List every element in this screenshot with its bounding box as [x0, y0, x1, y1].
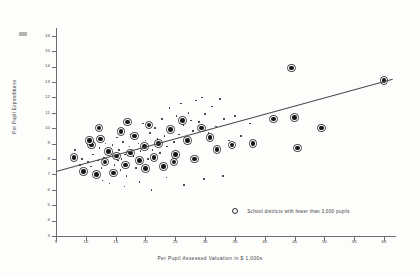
data-point-large-district: [228, 140, 230, 142]
data-point-small-district: [215, 147, 220, 152]
x-tick-label: 10: [76, 240, 96, 244]
data-point-large-district: [133, 155, 135, 157]
x-tick-label: 35: [225, 240, 245, 244]
data-point-small-district: [292, 115, 297, 120]
data-point-large-district: [190, 120, 192, 122]
data-point-small-district: [147, 123, 152, 128]
data-point-large-district: [211, 106, 213, 108]
data-point-large-district: [124, 154, 126, 156]
data-point-large-district: [147, 158, 149, 160]
data-point-large-district: [180, 103, 182, 105]
data-point-small-district: [168, 127, 173, 132]
data-point-large-district: [99, 147, 101, 149]
data-point-large-district: [203, 178, 205, 180]
x-tick-label: 25: [165, 240, 185, 244]
data-point-small-district: [125, 120, 130, 125]
y-tick-label: 9: [36, 141, 50, 145]
data-point-small-district: [208, 135, 213, 140]
data-point-large-district: [195, 100, 197, 102]
y-tick-label: 8: [36, 157, 50, 161]
data-point-large-district: [126, 175, 128, 177]
data-point-large-district: [188, 112, 190, 114]
legend: School districts with fewer than 3,000 p…: [232, 208, 350, 214]
data-point-small-district: [72, 155, 77, 160]
x-tick-label: 15: [106, 240, 126, 244]
data-point-large-district: [198, 121, 200, 123]
scan-artifact-mark: [19, 32, 27, 36]
data-point-large-district: [183, 184, 185, 186]
y-tick-label: 7: [36, 172, 50, 176]
data-point-large-district: [173, 141, 175, 143]
y-tick-label: 15: [36, 49, 50, 53]
data-point-small-district: [319, 126, 324, 131]
data-point-large-district: [117, 160, 119, 162]
data-point-large-district: [120, 169, 122, 171]
data-point-large-district: [139, 181, 141, 183]
data-point-small-district: [94, 172, 99, 177]
y-tick: [52, 128, 57, 129]
data-point-small-district: [185, 138, 190, 143]
data-point-small-district: [143, 166, 148, 171]
data-point-large-district: [204, 113, 206, 115]
data-point-large-district: [192, 130, 194, 132]
data-point-small-district: [89, 143, 94, 148]
data-point-large-district: [135, 167, 137, 169]
x-tick-label: 60: [374, 240, 394, 244]
y-tick-label: 13: [36, 80, 50, 84]
y-tick: [52, 51, 57, 52]
data-point-small-district: [173, 152, 178, 157]
data-point-large-district: [92, 154, 94, 156]
data-point-large-district: [121, 158, 123, 160]
data-point-small-district: [180, 118, 185, 123]
y-tick: [52, 82, 57, 83]
data-point-large-district: [183, 124, 185, 126]
data-point-large-district: [81, 158, 83, 160]
data-point-large-district: [86, 169, 88, 171]
data-point-large-district: [222, 175, 224, 177]
y-tick: [52, 190, 57, 191]
y-tick: [52, 97, 57, 98]
y-tick: [52, 113, 57, 114]
data-point-large-district: [166, 177, 168, 179]
data-point-large-district: [129, 146, 131, 148]
data-point-large-district: [201, 97, 203, 99]
y-tick-label: 5: [36, 203, 50, 207]
y-tick-label: 14: [36, 64, 50, 68]
y-tick: [52, 67, 57, 68]
data-point-small-district: [123, 163, 128, 168]
x-axis-title: Per Pupil Assessed Valuation in $ 1,000s: [0, 256, 420, 261]
x-tick-label: 50: [314, 240, 334, 244]
data-point-small-district: [192, 157, 197, 162]
data-point-large-district: [164, 135, 166, 137]
data-point-large-district: [102, 180, 104, 182]
data-point-large-district: [112, 144, 114, 146]
data-point-small-district: [251, 141, 256, 146]
data-point-large-district: [114, 164, 116, 166]
data-point-small-district: [161, 164, 166, 169]
data-point-large-district: [157, 138, 159, 140]
legend-label: School districts with fewer than 3,000 p…: [247, 209, 350, 214]
y-axis-title: Per Pupil Expenditures: [12, 67, 17, 147]
scatter-plot-figure: 345678910111213141516 510152025303540455…: [0, 0, 420, 276]
y-tick-label: 16: [36, 34, 50, 38]
data-point-small-district: [137, 158, 142, 163]
data-point-large-district: [149, 132, 151, 134]
data-point-large-district: [90, 166, 92, 168]
x-tick-label: 55: [344, 240, 364, 244]
data-point-large-district: [166, 146, 168, 148]
data-point-large-district: [138, 143, 140, 145]
data-point-large-district: [176, 115, 178, 117]
y-tick: [52, 159, 57, 160]
data-point-small-district: [230, 143, 235, 148]
data-point-large-district: [178, 134, 180, 136]
y-tick-label: 4: [36, 218, 50, 222]
data-point-small-district: [152, 155, 157, 160]
data-point-small-district: [271, 117, 276, 122]
y-tick: [52, 221, 57, 222]
data-point-small-district: [132, 134, 137, 139]
data-point-small-district: [97, 126, 102, 131]
data-point-small-district: [289, 66, 294, 71]
data-point-large-district: [105, 143, 107, 145]
x-tick-label: 5: [46, 240, 66, 244]
data-point-large-district: [145, 140, 147, 142]
